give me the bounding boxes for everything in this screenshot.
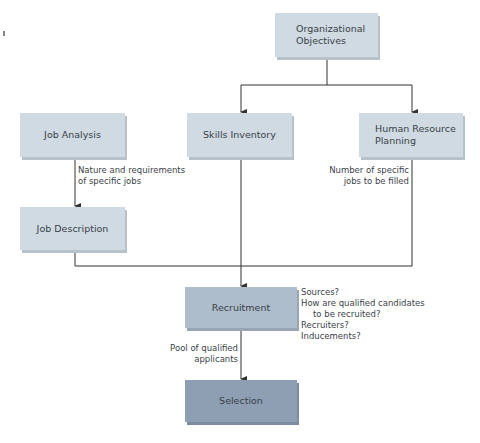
annotation-line: to be recruited? [301, 309, 425, 320]
annotation-line: of specific jobs [78, 176, 185, 187]
node-label: Job Description [37, 223, 109, 235]
annotation-recruitment-questions: Sources? How are qualified candidates to… [301, 287, 425, 342]
annotation-line: Recruiters? [301, 320, 425, 331]
annotation-recruitment-edge: Pool of qualified applicants [155, 343, 238, 365]
node-job-analysis: Job Analysis [20, 113, 125, 157]
node-human-resource-planning: Human Resource Planning [359, 113, 463, 157]
node-recruitment: Recruitment [185, 287, 297, 328]
node-label-line2: Objectives [296, 35, 365, 47]
annotation-line: Nature and requirements [78, 165, 185, 176]
annotation-line: Inducements? [301, 331, 425, 342]
annotation-line: Pool of qualified [155, 343, 238, 354]
annotation-line: jobs to be filled [328, 176, 409, 187]
node-label: Skills Inventory [203, 129, 276, 141]
annotation-hr-planning-edge: Number of specific jobs to be filled [328, 165, 409, 187]
annotation-line: Number of specific [328, 165, 409, 176]
node-label: Selection [219, 395, 263, 407]
node-label: Job Analysis [44, 129, 101, 141]
node-skills-inventory: Skills Inventory [187, 113, 292, 157]
node-label-line1: Organizational [296, 23, 365, 35]
node-job-description: Job Description [20, 207, 125, 250]
node-organizational-objectives: Organizational Objectives [275, 13, 378, 57]
annotation-job-analysis-edge: Nature and requirements of specific jobs [78, 165, 185, 187]
node-selection: Selection [185, 380, 297, 422]
node-label: Recruitment [212, 302, 270, 314]
annotation-line: Sources? [301, 287, 425, 298]
annotation-line: How are qualified candidates [301, 298, 425, 309]
node-label-line1: Human Resource [375, 123, 456, 135]
node-label-line2: Planning [375, 135, 456, 147]
annotation-line: applicants [155, 354, 238, 365]
